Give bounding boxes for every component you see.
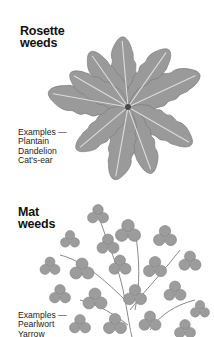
mat-weeds-heading: Mat weeds [18, 206, 55, 230]
example-item: Cat's-ear [18, 156, 67, 165]
rosette-weeds-heading: Rosette weeds [20, 25, 64, 49]
heading-line2: weeds [20, 37, 64, 49]
example-item: Yarrow [18, 330, 67, 337]
heading-line2: weeds [18, 218, 55, 230]
rosette-examples: Examples — Plantain Dandelion Cat's-ear [18, 128, 67, 166]
mat-examples: Examples — Pearlwort Yarrow [18, 311, 67, 337]
mat-weed-illustration [0, 0, 214, 337]
